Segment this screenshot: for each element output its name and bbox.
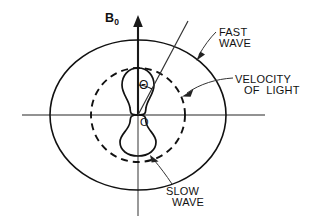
slow-wave-label: SLOWWAVE <box>166 186 204 208</box>
theta-angle-label: Θ <box>139 79 149 91</box>
figure-graphics <box>0 0 317 223</box>
slow-wave-label-line1: SLOW <box>166 185 199 197</box>
velocity-of-light-label-line1: VELOCITY <box>235 73 291 85</box>
fast-wave-leader-line <box>199 32 216 55</box>
figure-canvas: B0 FASTWAVE VELOCITYOF LIGHT SLOWWAVE Θ … <box>0 0 317 223</box>
slow-wave-label-line2: WAVE <box>166 197 204 208</box>
velocity-of-light-label-line2: OF LIGHT <box>235 85 300 96</box>
fast-wave-label-line1: FAST <box>219 26 247 38</box>
fast-wave-label: FASTWAVE <box>219 27 251 49</box>
velocity-leader-line <box>187 78 233 93</box>
b0-axis-label-main: B <box>105 11 114 25</box>
fast-wave-leader-arrow-fill <box>196 51 205 60</box>
origin-label: O <box>140 117 149 128</box>
velocity-of-light-label: VELOCITYOF LIGHT <box>235 74 300 96</box>
slow-wave-leader-line <box>154 160 172 184</box>
velocity-leader-arrow <box>182 89 193 97</box>
fast-wave-label-line2: WAVE <box>219 37 251 49</box>
b0-axis-label: B0 <box>105 12 119 25</box>
b0-axis-label-subscript: 0 <box>114 17 119 27</box>
b0-arrow-head <box>133 15 143 27</box>
